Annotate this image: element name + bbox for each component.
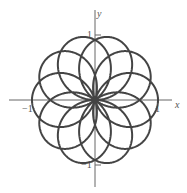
y-tick-label-neg1: −1 <box>81 159 92 170</box>
polar-rose-chart: −1 1 1 −1 x y <box>0 0 187 193</box>
x-tick-label-neg1: −1 <box>22 103 33 114</box>
y-axis-label: y <box>96 8 102 19</box>
x-axis-label: x <box>174 99 180 110</box>
